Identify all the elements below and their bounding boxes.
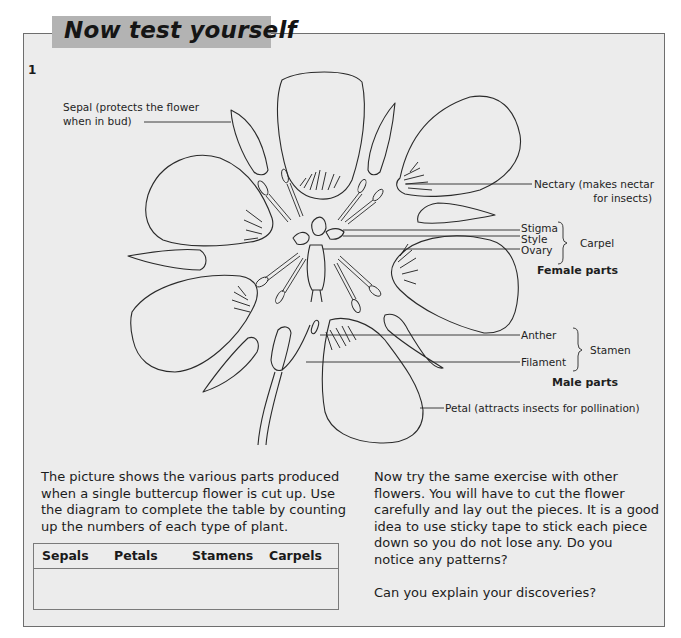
male-parts-label: Male parts [552, 376, 618, 390]
stamen-bracket [573, 328, 582, 371]
sepal-label-line2: when in bud) [63, 114, 199, 128]
sepal-right [418, 203, 495, 223]
instructions-line: The picture shows the various parts prod… [41, 469, 346, 486]
petal-top [277, 72, 364, 199]
follow-up-line: notice any patterns? [374, 552, 659, 569]
sepal-upper-left [231, 110, 268, 175]
instructions-line: when a single buttercup flower is cut up… [41, 486, 346, 503]
instructions-line: up the numbers of each type of plant. [41, 519, 346, 536]
carpel-bracket [558, 222, 567, 264]
follow-up-line: down so you do not lose any. Do you [374, 535, 659, 552]
petal-bottom-left [131, 275, 258, 372]
follow-up-text: Now try the same exercise with other flo… [374, 469, 659, 601]
instructions-line: the diagram to complete the table by cou… [41, 502, 346, 519]
carpel-label: Carpel [580, 236, 614, 250]
anther-label: Anther [521, 328, 556, 342]
sepal-upper-right [368, 103, 395, 175]
sepal-label-line1: Sepal (protects the flower [63, 100, 199, 114]
stamen-label: Stamen [590, 343, 631, 357]
stamens [254, 168, 385, 313]
sepal-lower-left [203, 337, 258, 392]
follow-up-line: Now try the same exercise with other [374, 469, 659, 486]
sepal-label: Sepal (protects the flower when in bud) [63, 100, 199, 128]
count-table: Sepals Petals Stamens Carpels [33, 543, 339, 610]
discovery-question: Can you explain your discoveries? [374, 585, 659, 602]
petal-right [392, 236, 519, 333]
pistil-large [307, 245, 325, 290]
nectary-label-line2: for insects) [534, 191, 654, 205]
nectary-label: Nectary (makes nectar for insects) [534, 177, 654, 205]
petal-bottom-right [322, 318, 423, 443]
carpel-right [326, 229, 344, 240]
table-answer-row[interactable] [34, 569, 338, 610]
column-petals: Petals [114, 548, 158, 563]
table-header: Sepals Petals Stamens Carpels [34, 544, 338, 569]
column-stamens: Stamens [192, 548, 253, 563]
filament-label: Filament [521, 355, 566, 369]
column-carpels: Carpels [269, 548, 322, 563]
petal-label: Petal (attracts insects for pollination) [445, 401, 640, 415]
follow-up-line: flowers. You will have to cut the flower [374, 486, 659, 503]
nectary-label-line1: Nectary (makes nectar [534, 177, 654, 191]
follow-up-line: carefully and lay out the pieces. It is … [374, 502, 659, 519]
sepal-left [128, 249, 206, 270]
female-parts-label: Female parts [537, 264, 618, 278]
carpel-top [312, 217, 326, 235]
title-tab: Now test yourself [52, 16, 271, 48]
page-title: Now test yourself [64, 17, 297, 43]
ovary-label: Ovary [521, 243, 552, 257]
carpel-left [293, 232, 309, 244]
sepal-lower-right [384, 314, 443, 368]
column-sepals: Sepals [42, 548, 89, 563]
instructions-text: The picture shows the various parts prod… [41, 469, 346, 535]
petal-top-right [397, 96, 521, 196]
follow-up-line: idea to use sticky tape to stick each pi… [374, 519, 659, 536]
